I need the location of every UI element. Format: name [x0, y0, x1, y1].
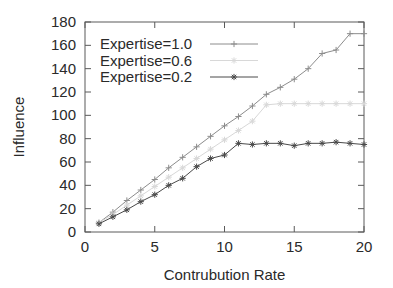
data-point — [180, 165, 186, 171]
data-point — [221, 137, 227, 143]
x-tick-label: 15 — [286, 238, 303, 255]
legend-key-marker-1 — [231, 41, 237, 47]
data-point — [361, 101, 367, 107]
data-point — [180, 175, 186, 181]
data-point — [221, 152, 227, 158]
legend-key-marker-2 — [231, 57, 237, 63]
data-point — [207, 155, 213, 161]
data-point — [347, 140, 353, 146]
data-point — [277, 101, 283, 107]
line-chart: 020406080100120140160180 05101520 Expert… — [0, 0, 393, 288]
series-3 — [96, 139, 367, 227]
y-axis-title: Influence — [10, 97, 27, 158]
data-point — [333, 139, 339, 145]
data-point — [277, 84, 283, 90]
y-tick-label: 20 — [59, 200, 76, 217]
series-line — [99, 142, 364, 224]
chart-figure: 020406080100120140160180 05101520 Expert… — [0, 0, 393, 288]
data-point — [263, 102, 269, 108]
data-point — [152, 192, 158, 198]
data-point — [138, 199, 144, 205]
series-2 — [96, 101, 367, 226]
data-point — [333, 101, 339, 107]
x-tick-label: 0 — [81, 238, 89, 255]
legend-label-3: Expertise=0.2 — [100, 68, 192, 85]
data-point — [166, 174, 172, 180]
data-point — [305, 101, 311, 107]
y-tick-label: 160 — [51, 36, 76, 53]
data-point — [263, 140, 269, 146]
legend-label-1: Expertise=1.0 — [100, 35, 192, 52]
x-axis-tick-labels: 05101520 — [81, 238, 373, 255]
y-tick-label: 100 — [51, 106, 76, 123]
y-tick-label: 140 — [51, 60, 76, 77]
data-point — [235, 127, 241, 133]
x-tick-label: 20 — [356, 238, 373, 255]
x-tick-label: 5 — [151, 238, 159, 255]
data-point — [277, 140, 283, 146]
data-point — [96, 221, 102, 227]
data-point — [124, 207, 130, 213]
x-tick-label: 10 — [216, 238, 233, 255]
data-point — [319, 140, 325, 146]
data-point — [305, 140, 311, 146]
data-point — [291, 101, 297, 107]
data-point — [319, 101, 325, 107]
y-tick-label: 0 — [68, 223, 76, 240]
data-point — [207, 146, 213, 152]
y-tick-label: 80 — [59, 130, 76, 147]
data-point — [361, 31, 367, 37]
legend-key-marker-3 — [231, 74, 237, 80]
data-point — [235, 140, 241, 146]
chart-legend: Expertise=1.0Expertise=0.6Expertise=0.2 — [100, 35, 258, 85]
y-tick-label: 60 — [59, 153, 76, 170]
data-point — [249, 141, 255, 147]
data-point — [166, 182, 172, 188]
y-tick-label: 120 — [51, 83, 76, 100]
data-point — [110, 214, 116, 220]
data-point — [152, 183, 158, 189]
data-point — [249, 118, 255, 124]
data-point — [291, 143, 297, 149]
y-axis-tick-labels: 020406080100120140160180 — [51, 13, 76, 240]
legend-label-2: Expertise=0.6 — [100, 52, 192, 69]
y-tick-label: 180 — [51, 13, 76, 30]
y-tick-label: 40 — [59, 176, 76, 193]
x-axis-title: Contrubution Rate — [164, 266, 286, 283]
data-point — [194, 164, 200, 170]
data-point — [361, 141, 367, 147]
data-point — [194, 155, 200, 161]
data-point — [347, 101, 353, 107]
data-point — [138, 193, 144, 199]
